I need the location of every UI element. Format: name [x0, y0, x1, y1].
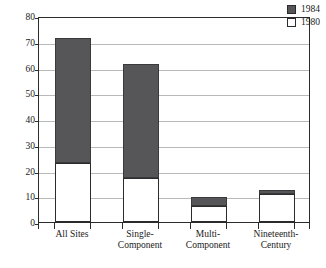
- bar-segment-1984: [191, 197, 227, 206]
- x-axis-label: All Sites: [38, 229, 106, 240]
- x-axis-label: Single- Component: [106, 229, 174, 251]
- bar-segment-1980: [259, 194, 295, 222]
- bar-segment-1980: [123, 178, 159, 222]
- bar-chart: 01020304050607080 19841980 All SitesSing…: [0, 0, 326, 268]
- legend-swatch-1984: [287, 5, 296, 14]
- bar-stack: [55, 16, 91, 222]
- y-tick-label: 30: [26, 142, 36, 152]
- x-axis-label: Nineteenth- Century: [242, 229, 310, 251]
- legend-label: 1984: [301, 5, 320, 15]
- x-tick-mark: [38, 223, 39, 229]
- legend-label: 1980: [301, 18, 320, 28]
- bar-stack: [191, 16, 227, 222]
- x-tick-mark: [309, 223, 310, 229]
- chart-legend: 19841980: [287, 5, 320, 27]
- bar-stack: [123, 16, 159, 222]
- x-axis-label: Multi- Component: [174, 229, 242, 251]
- bar-segment-1984: [55, 38, 91, 162]
- bar-segment-1980: [191, 206, 227, 222]
- y-tick-label: 60: [26, 65, 36, 75]
- y-tick-mark: [35, 173, 39, 174]
- y-tick-mark: [35, 121, 39, 122]
- y-tick-label: 40: [26, 116, 36, 126]
- legend-item: 1980: [287, 18, 320, 28]
- y-tick-label: 70: [26, 39, 36, 49]
- y-tick-label: 20: [26, 168, 36, 178]
- y-tick-mark: [35, 198, 39, 199]
- y-tick-mark: [35, 95, 39, 96]
- y-tick-label: 50: [26, 91, 36, 101]
- y-tick-label: 10: [26, 194, 36, 204]
- legend-swatch-1980: [287, 18, 296, 27]
- y-tick-label: 80: [26, 13, 36, 23]
- y-tick-mark: [35, 18, 39, 19]
- bar-segment-1984: [259, 190, 295, 194]
- y-tick-mark: [35, 70, 39, 71]
- bar-stack: [259, 16, 295, 222]
- legend-item: 1984: [287, 5, 320, 15]
- bar-segment-1980: [55, 163, 91, 222]
- bar-segment-1984: [123, 64, 159, 178]
- plot-area: 01020304050607080: [38, 17, 310, 223]
- y-tick-mark: [35, 44, 39, 45]
- y-tick-mark: [35, 147, 39, 148]
- y-tick-label: 0: [30, 219, 35, 229]
